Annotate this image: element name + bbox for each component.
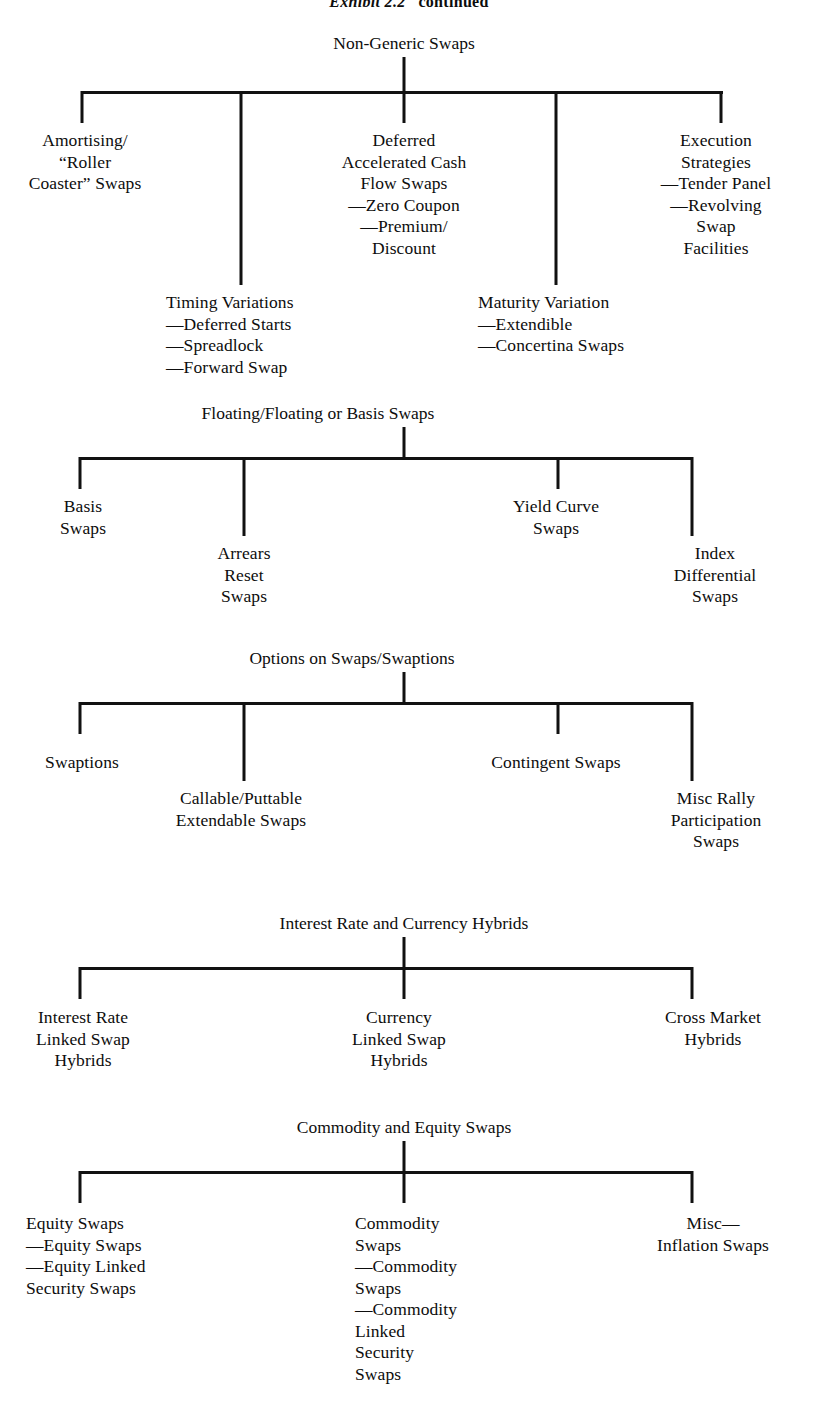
exhibit-header-label: Exhibit 2.2: [329, 0, 405, 10]
connector-drop-s4-cross-market: [691, 967, 694, 999]
connector-bar-s3: [79, 702, 693, 705]
connector-drop-s3-callable: [243, 702, 246, 781]
node-cross-market-hybrids: Cross Market Hybrids: [665, 1007, 761, 1050]
section-title-floating-floating-basis-swaps: Floating/Floating or Basis Swaps: [202, 403, 435, 424]
connector-drop-s5-equity: [79, 1171, 82, 1203]
connector-root-stem-s1: [403, 57, 406, 93]
section-title-non-generic-swaps: Non-Generic Swaps: [333, 33, 474, 54]
node-swaptions: Swaptions: [45, 752, 119, 774]
connector-root-stem-s2: [403, 427, 406, 459]
node-deferred-accelerated-cash-flow-swaps: Deferred Accelerated Cash Flow Swaps —Ze…: [342, 130, 467, 259]
section-title-interest-rate-currency-hybrids: Interest Rate and Currency Hybrids: [280, 913, 529, 934]
node-equity-swaps: Equity Swaps —Equity Swaps —Equity Linke…: [26, 1213, 146, 1299]
connector-bar-s2: [79, 457, 693, 460]
connector-drop-s2-yield-curve: [557, 457, 560, 489]
connector-drop-s3-swaptions: [79, 702, 82, 734]
node-arrears-reset-swaps: Arrears Reset Swaps: [217, 543, 270, 608]
node-maturity-variation: Maturity Variation —Extendible —Concerti…: [478, 292, 624, 357]
connector-drop-s5-commodity: [403, 1171, 406, 1203]
connector-bar-s4: [79, 967, 693, 970]
connector-drop-s4-currency-linked: [403, 967, 406, 999]
section-title-options-on-swaps: Options on Swaps/Swaptions: [249, 648, 454, 669]
node-basis-swaps: Basis Swaps: [60, 496, 106, 539]
node-misc-rally-participation-swaps: Misc Rally Participation Swaps: [671, 788, 762, 853]
connector-drop-s2-basis: [79, 457, 82, 489]
node-amortising-roller-coaster-swaps: Amortising/ “Roller Coaster” Swaps: [29, 130, 142, 195]
connector-drop-s4-interest-rate-linked: [79, 967, 82, 999]
connector-drop-s1-maturity: [555, 91, 558, 285]
exhibit-page: Exhibit 2.2 continued Non-Generic Swaps …: [0, 0, 818, 1402]
exhibit-header: Exhibit 2.2 continued: [329, 0, 488, 11]
connector-drop-s1-timing: [240, 91, 243, 285]
node-misc-inflation-swaps: Misc— Inflation Swaps: [657, 1213, 769, 1256]
connector-drop-s1-execution: [720, 91, 723, 123]
connector-root-stem-s5: [403, 1141, 406, 1173]
node-contingent-swaps: Contingent Swaps: [491, 752, 620, 774]
section-title-commodity-equity-swaps: Commodity and Equity Swaps: [297, 1117, 511, 1138]
node-timing-variations: Timing Variations —Deferred Starts —Spre…: [166, 292, 294, 378]
connector-bar-s5: [79, 1171, 693, 1174]
node-interest-rate-linked-swap-hybrids: Interest Rate Linked Swap Hybrids: [36, 1007, 130, 1072]
connector-root-stem-s4: [403, 937, 406, 969]
node-commodity-swaps: Commodity Swaps —Commodity Swaps —Commod…: [355, 1213, 457, 1385]
node-yield-curve-swaps: Yield Curve Swaps: [513, 496, 599, 539]
node-callable-puttable-extendable-swaps: Callable/Puttable Extendable Swaps: [176, 788, 306, 831]
connector-drop-s3-contingent: [557, 702, 560, 734]
exhibit-header-continued: continued: [418, 0, 488, 10]
node-execution-strategies: Execution Strategies —Tender Panel —Revo…: [661, 130, 771, 259]
node-index-differential-swaps: Index Differential Swaps: [674, 543, 757, 608]
connector-drop-s2-arrears: [243, 457, 246, 536]
connector-drop-s2-index-differential: [691, 457, 694, 536]
connector-drop-s3-misc-rally: [691, 702, 694, 781]
connector-drop-s5-misc-inflation: [691, 1171, 694, 1203]
connector-drop-s1-deferred: [403, 91, 406, 123]
node-currency-linked-swap-hybrids: Currency Linked Swap Hybrids: [352, 1007, 446, 1072]
connector-drop-s1-amortising: [81, 91, 84, 123]
connector-root-stem-s3: [403, 672, 406, 704]
